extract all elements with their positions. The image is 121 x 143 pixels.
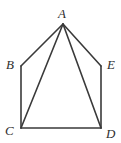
edge-ab bbox=[21, 24, 63, 66]
vertex-label-b: B bbox=[6, 58, 14, 71]
figure-canvas bbox=[0, 0, 121, 143]
vertex-label-d: D bbox=[106, 127, 115, 140]
edge-ea bbox=[63, 24, 101, 66]
vertex-label-a: A bbox=[58, 7, 66, 20]
diagonal-ad bbox=[63, 24, 101, 128]
geometry-figure: A B C D E bbox=[0, 0, 121, 143]
vertex-label-c: C bbox=[5, 124, 14, 137]
diagonal-ac bbox=[21, 24, 63, 128]
vertex-label-e: E bbox=[107, 58, 115, 71]
